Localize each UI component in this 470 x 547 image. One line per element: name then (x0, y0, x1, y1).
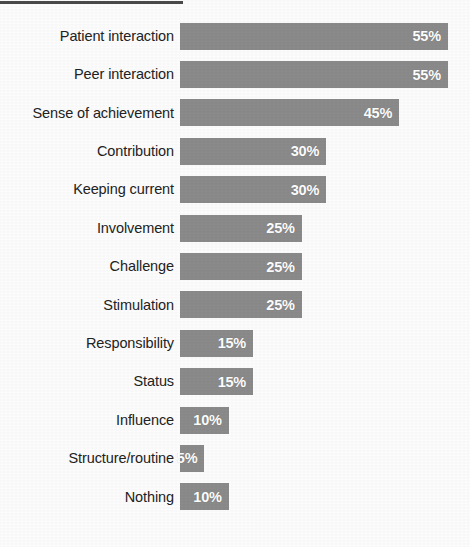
bar-category-label: Stimulation (0, 297, 180, 314)
bar-track: 10% (180, 401, 470, 439)
bar-value-label: 15% (218, 374, 246, 390)
bar: 30% (180, 176, 326, 203)
bar-track: 15% (180, 363, 470, 401)
bar-row: Responsibility15% (0, 324, 470, 362)
bar-row: Stimulation25% (0, 286, 470, 324)
bar-value-label: 25% (266, 297, 294, 313)
bar-row: Contribution30% (0, 132, 470, 170)
bar: 10% (180, 407, 229, 434)
bar: 55% (180, 23, 448, 50)
bar-category-label: Responsibility (0, 335, 180, 352)
bar-track: 55% (180, 55, 470, 93)
bar: 25% (180, 291, 302, 318)
bar-row: Involvement25% (0, 209, 470, 247)
bar-chart-rows: Patient interaction55%Peer interaction55… (0, 17, 470, 516)
bar-track: 55% (180, 17, 470, 55)
bar-row: Challenge25% (0, 247, 470, 285)
bar-row: Sense of achievement45% (0, 94, 470, 132)
bar-track: 25% (180, 247, 470, 285)
bar-category-label: Nothing (0, 489, 180, 506)
bar-category-label: Status (0, 373, 180, 390)
bar-chart: Patient interaction55%Peer interaction55… (0, 0, 470, 547)
bar-value-label: 55% (412, 28, 440, 44)
bar-category-label: Sense of achievement (0, 105, 180, 122)
bar-track: 5% (180, 439, 470, 477)
bar-value-label: 25% (266, 259, 294, 275)
bar-row: Keeping current30% (0, 171, 470, 209)
bar-category-label: Contribution (0, 143, 180, 160)
bar-category-label: Challenge (0, 258, 180, 275)
bar-category-label: Influence (0, 412, 180, 429)
bar-value-label: 55% (412, 67, 440, 83)
bar-track: 15% (180, 324, 470, 362)
bar: 15% (180, 330, 253, 357)
bar: 15% (180, 368, 253, 395)
bar: 45% (180, 99, 399, 126)
bar-track: 25% (180, 286, 470, 324)
bar-category-label: Patient interaction (0, 28, 180, 45)
top-rule-divider (0, 1, 183, 4)
bar-value-label: 30% (291, 182, 319, 198)
bar-row: Influence10% (0, 401, 470, 439)
bar-value-label: 30% (291, 143, 319, 159)
bar-category-label: Structure/routine (0, 450, 180, 467)
bar-value-label: 10% (193, 412, 221, 428)
bar: 10% (180, 483, 229, 510)
bar: 5% (180, 445, 204, 472)
bar-track: 25% (180, 209, 470, 247)
bar-value-label: 25% (266, 220, 294, 236)
bar-track: 30% (180, 171, 470, 209)
bar-value-label: 5% (177, 450, 198, 466)
bar-value-label: 45% (364, 105, 392, 121)
bar-track: 45% (180, 94, 470, 132)
bar-category-label: Keeping current (0, 181, 180, 198)
bar-category-label: Peer interaction (0, 66, 180, 83)
bar-value-label: 10% (193, 489, 221, 505)
bar-value-label: 15% (218, 335, 246, 351)
bar-row: Peer interaction55% (0, 55, 470, 93)
bar-row: Structure/routine5% (0, 439, 470, 477)
bar-row: Nothing10% (0, 478, 470, 516)
bar-row: Status15% (0, 363, 470, 401)
bar-category-label: Involvement (0, 220, 180, 237)
bar-track: 10% (180, 478, 470, 516)
bar: 25% (180, 215, 302, 242)
bar-track: 30% (180, 132, 470, 170)
bar-row: Patient interaction55% (0, 17, 470, 55)
bar: 55% (180, 61, 448, 88)
bar: 25% (180, 253, 302, 280)
bar: 30% (180, 138, 326, 165)
